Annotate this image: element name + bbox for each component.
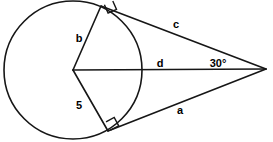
label-tangent-lower: a — [177, 104, 184, 116]
label-tangent-upper: c — [173, 18, 179, 30]
geometry-figure: b 5 d c a 30° — [0, 0, 273, 142]
label-radius-upper: b — [76, 32, 83, 44]
tangent-lower-segment — [108, 69, 266, 131]
geometry-diagram: b 5 d c a 30° — [0, 0, 273, 142]
label-apex-angle: 30° — [210, 57, 227, 69]
label-center-to-apex: d — [157, 57, 164, 69]
center-to-apex-segment — [73, 69, 266, 70]
label-radius-lower: 5 — [76, 99, 82, 111]
tangent-upper-segment — [101, 6, 266, 69]
